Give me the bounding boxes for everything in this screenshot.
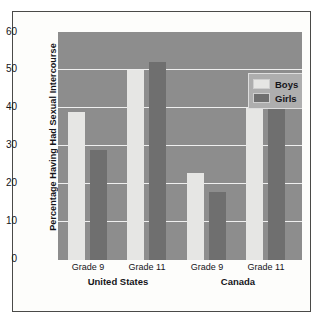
bar-us-grade9-boys [68,112,85,260]
x-tick-label-canada-grade9: Grade 9 [179,262,235,272]
legend-label-boys: Boys [275,79,298,90]
bar-canada-grade9-girls [209,192,226,260]
x-group-label-canada: Canada [178,276,298,287]
x-group-label-united-states: United States [58,276,178,287]
y-tick-label-40: 40 [0,102,17,112]
bar-canada-grade11-boys [246,108,263,260]
bar-canada-grade9-boys [187,173,204,260]
y-tick-label-60: 60 [0,27,17,37]
chart-page: Percentage Having Had Sexual Intercourse… [0,0,323,324]
y-tick-label-10: 10 [0,216,17,226]
legend-label-girls: Girls [275,93,297,104]
bar-us-grade9-girls [90,150,107,260]
y-tick-label-50: 50 [0,64,17,74]
y-tick-label-30: 30 [0,140,17,150]
y-axis-title: Percentage Having Had Sexual Intercourse [48,25,58,249]
legend: Boys Girls [248,73,302,109]
plot-area: Boys Girls [58,32,302,260]
legend-item-boys: Boys [253,77,302,91]
legend-swatch-boys-icon [253,79,270,89]
x-tick-label-us-grade9: Grade 9 [60,262,116,272]
y-tick-label-0: 0 [0,254,17,264]
x-tick-label-canada-grade11: Grade 11 [238,262,294,272]
gridline-50 [58,69,302,70]
gridline-30 [58,145,302,146]
x-tick-label-us-grade11: Grade 11 [119,262,175,272]
legend-item-girls: Girls [253,91,302,105]
bar-us-grade11-boys [127,70,144,260]
bar-canada-grade11-girls [268,85,285,260]
figure-frame: Percentage Having Had Sexual Intercourse… [12,11,311,312]
y-tick-label-20: 20 [0,178,17,188]
bar-us-grade11-girls [149,62,166,260]
legend-swatch-girls-icon [253,93,270,103]
